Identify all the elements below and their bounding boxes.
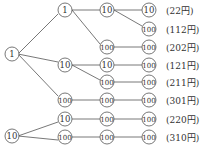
svg-text:100: 100 [142, 134, 155, 142]
total-label: (22円) [166, 4, 193, 17]
total-label: (202円) [166, 41, 199, 54]
total-label: (211円) [166, 76, 199, 89]
tree-node: 100 [58, 130, 72, 144]
tree-node: 1 [5, 47, 19, 61]
total-label: (301円) [166, 94, 199, 107]
tree-branch [18, 54, 58, 96]
svg-text:1: 1 [62, 5, 67, 15]
svg-text:100: 100 [142, 79, 155, 87]
svg-text:100: 100 [100, 97, 113, 105]
tree-node: 100 [142, 58, 156, 72]
tree-node: 100 [100, 93, 114, 107]
tree-node: 100 [100, 130, 114, 144]
svg-text:10: 10 [7, 131, 18, 141]
svg-text:10: 10 [60, 114, 71, 124]
svg-text:1: 1 [9, 49, 14, 59]
tree-node: 100 [142, 40, 156, 54]
svg-text:100: 100 [100, 134, 113, 142]
svg-text:100: 100 [58, 97, 71, 105]
svg-text:100: 100 [142, 62, 155, 70]
svg-text:100: 100 [100, 116, 113, 124]
tree-node: 10 [100, 58, 114, 72]
tree-branch [72, 65, 100, 80]
tree-branch [18, 136, 58, 140]
total-label: (121円) [166, 59, 199, 72]
total-label: (220円) [166, 113, 199, 126]
tree-node: 1 [58, 3, 72, 17]
svg-text:10: 10 [102, 60, 113, 70]
tree-node: 10 [5, 129, 19, 143]
svg-text:10: 10 [102, 5, 113, 15]
tree-node: 10 [142, 3, 156, 17]
total-label: (310円) [166, 131, 199, 144]
tree-branch [114, 10, 142, 26]
svg-text:100: 100 [58, 134, 71, 142]
svg-text:100: 100 [142, 116, 155, 124]
svg-text:100: 100 [142, 26, 155, 34]
tree-node: 100 [142, 112, 156, 126]
svg-text:100: 100 [100, 44, 113, 52]
tree-node: 10 [58, 112, 72, 126]
svg-text:100: 100 [142, 44, 155, 52]
tree-node: 100 [100, 75, 114, 89]
tree-branch [18, 122, 58, 136]
svg-text:10: 10 [60, 60, 71, 70]
tree-node: 10 [58, 58, 72, 72]
svg-text:100: 100 [100, 79, 113, 87]
tree-node: 100 [100, 112, 114, 126]
svg-text:100: 100 [142, 97, 155, 105]
tree-node: 10 [100, 3, 114, 17]
svg-text:10: 10 [144, 5, 155, 15]
tree-node: 100 [142, 130, 156, 144]
tree-node: 100 [100, 40, 114, 54]
total-label: (112円) [166, 23, 199, 36]
tree-node: 100 [58, 93, 72, 107]
tree-node: 100 [142, 22, 156, 36]
tree-branch [18, 14, 58, 54]
tree-node: 100 [142, 93, 156, 107]
tree-node: 100 [142, 75, 156, 89]
tree-branch [72, 10, 100, 44]
